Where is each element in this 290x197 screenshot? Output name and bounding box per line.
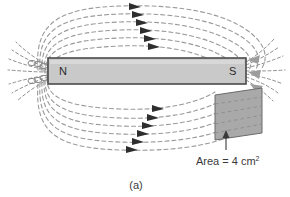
magnetic-field-figure: N S Area = 4 cm2 (a): [0, 0, 290, 197]
area-annotation-text: Area = 4 cm: [196, 155, 256, 167]
magnet-north-label: N: [59, 65, 67, 77]
field-arrow-bottom-4: [137, 130, 149, 137]
field-arrow-top-1: [129, 3, 141, 10]
field-arrow-top-5: [144, 35, 156, 42]
field-arrow-top-3: [136, 19, 148, 26]
figure-caption: (a): [129, 179, 142, 191]
area-annotation-label: Area = 4 cm2: [196, 155, 260, 167]
south-wedge-1: [248, 55, 260, 64]
field-arrow-bottom-3: [142, 122, 154, 129]
area-patch-shape: [215, 88, 262, 140]
magnet-south-label: S: [229, 65, 236, 77]
field-arrow-bottom-1: [152, 105, 164, 112]
field-arrow-bottom-6: [126, 146, 138, 153]
north-strand-6: [12, 77, 48, 93]
area-annotation-exponent: 2: [256, 155, 260, 162]
field-arrows-bottom: [126, 105, 164, 153]
field-arrows-top: [129, 3, 160, 50]
field-line-bottom-2: [45, 80, 224, 118]
south-strand-3: [246, 56, 283, 68]
field-arrow-bottom-2: [147, 114, 159, 121]
field-arrow-top-4: [140, 27, 152, 34]
field-wedges-south: [248, 55, 263, 93]
bar-magnet: N S: [48, 58, 246, 84]
area-patch: [215, 88, 262, 140]
field-arrow-top-6: [148, 43, 160, 50]
south-wedge-2: [248, 70, 261, 79]
field-arrow-top-2: [132, 11, 144, 18]
south-strand-4: [246, 70, 285, 71]
field-arrow-bottom-5: [132, 138, 144, 145]
bar-magnet-highlight: [50, 60, 244, 64]
